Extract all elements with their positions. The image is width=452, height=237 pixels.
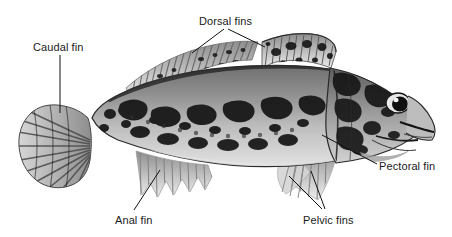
second-dorsal-fin xyxy=(262,34,336,69)
label-dorsal-fins: Dorsal fins xyxy=(199,15,252,27)
fish-illustration xyxy=(0,0,452,237)
eye xyxy=(386,93,410,113)
label-pectoral-fin: Pectoral fin xyxy=(379,160,435,172)
label-pelvic-fins: Pelvic fins xyxy=(303,214,354,226)
fish-anatomy-diagram: Caudal fin Dorsal fins Pectoral fin Anal… xyxy=(0,0,452,237)
fish-head xyxy=(326,68,435,163)
label-anal-fin: Anal fin xyxy=(115,214,153,226)
label-caudal-fin: Caudal fin xyxy=(33,41,84,53)
caudal-fin xyxy=(18,105,91,194)
